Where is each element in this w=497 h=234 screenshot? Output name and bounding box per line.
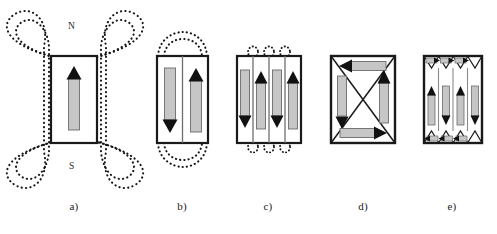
- caption-b: b): [162, 200, 202, 212]
- magnetic-domains-figure: N S: [0, 0, 497, 234]
- domain-arrow-a-1: [67, 66, 82, 130]
- panel-b: [140, 0, 225, 234]
- pole-label-north: N: [68, 21, 75, 31]
- domain-arrow-b-2: [189, 68, 204, 132]
- closure-arrows-bottom-e: [424, 136, 467, 142]
- field-lines-right: [97, 11, 143, 188]
- field-lines-left: [7, 11, 53, 188]
- panel-e: [410, 0, 497, 234]
- domain-arrow-b-1: [163, 68, 178, 133]
- closure-arrows-top-e: [426, 58, 469, 64]
- panel-a: N S: [0, 0, 150, 234]
- panel-b-graphic: [140, 0, 225, 234]
- panel-c-graphic: [225, 0, 320, 234]
- field-arcs-top-b: [158, 32, 207, 56]
- panel-d: [320, 0, 410, 234]
- panel-d-graphic: [320, 0, 410, 234]
- panel-e-graphic: [410, 0, 497, 234]
- caption-d: d): [343, 200, 383, 212]
- panel-c: [225, 0, 320, 234]
- panel-a-graphic: [0, 0, 150, 234]
- field-arcs-bottom-b: [158, 143, 207, 167]
- caption-a: a): [54, 200, 94, 212]
- caption-c: c): [248, 200, 288, 212]
- caption-e: e): [432, 200, 472, 212]
- pole-label-south: S: [69, 161, 74, 171]
